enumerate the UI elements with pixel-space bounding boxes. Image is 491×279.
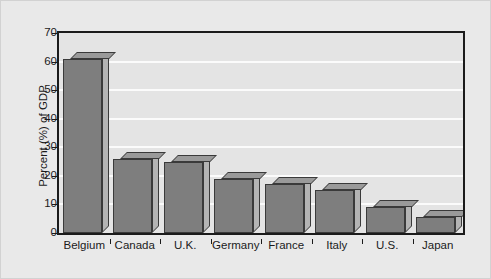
bar-front-face xyxy=(265,184,304,233)
x-axis-labels: BelgiumCanadaU.K.GermanyFranceItalyU.S.J… xyxy=(57,239,465,259)
bar-top-face xyxy=(120,152,166,159)
bar-side-face xyxy=(304,177,311,233)
bar-top-face xyxy=(70,52,116,59)
x-tick-label: U.S. xyxy=(362,239,413,251)
bar-top-face xyxy=(221,172,267,179)
gridline xyxy=(59,89,463,91)
bar-uk xyxy=(164,162,203,233)
bar-us xyxy=(366,207,405,233)
x-tick-label: Germany xyxy=(211,239,262,251)
bar-side-face xyxy=(354,183,361,233)
bar-side-face xyxy=(203,155,210,233)
bar-top-face xyxy=(322,183,368,190)
gridline xyxy=(59,146,463,148)
plot-area xyxy=(57,31,465,235)
bar-side-face xyxy=(102,52,109,233)
bar-top-face xyxy=(373,200,419,207)
bar-front-face xyxy=(416,217,455,233)
y-axis-ticks: 010203040506070 xyxy=(12,0,57,279)
gridline xyxy=(59,118,463,120)
bar-front-face xyxy=(214,179,253,233)
bar-front-face xyxy=(315,190,354,233)
bar-top-face xyxy=(272,177,318,184)
bar-japan xyxy=(416,217,455,233)
bar-front-face xyxy=(366,207,405,233)
x-tick-label: Japan xyxy=(413,239,464,251)
bar-side-face xyxy=(253,172,260,233)
bar-france xyxy=(265,184,304,233)
bar-italy xyxy=(315,190,354,233)
x-tick-label: France xyxy=(261,239,312,251)
bar-top-face xyxy=(171,155,217,162)
bar-front-face xyxy=(164,162,203,233)
bar-front-face xyxy=(63,59,102,233)
bar-front-face xyxy=(113,159,152,233)
bar-top-face xyxy=(423,210,465,217)
bar-germany xyxy=(214,179,253,233)
chart-figure: Percent (%) of GDP 010203040506070 Belgi… xyxy=(0,0,491,279)
x-tick-label: U.K. xyxy=(160,239,211,251)
x-tick-label: Belgium xyxy=(59,239,110,251)
bar-canada xyxy=(113,159,152,233)
x-tick-label: Canada xyxy=(110,239,161,251)
x-tick-label: Italy xyxy=(312,239,363,251)
bar-belgium xyxy=(63,59,102,233)
gridline xyxy=(59,61,463,63)
bar-side-face xyxy=(152,152,159,233)
